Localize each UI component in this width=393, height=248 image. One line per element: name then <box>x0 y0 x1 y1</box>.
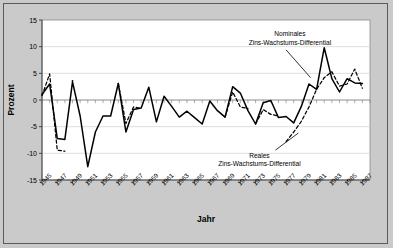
y-tick-label: -15 <box>27 177 37 184</box>
annotation-line-2: Zins-Wachstums-Differential <box>218 160 301 167</box>
y-tick-label: 15 <box>29 17 37 24</box>
x-axis-title: Jahr <box>197 214 216 224</box>
plot-wrapper: 151050-5-10-15 1945194719491951195319551… <box>0 0 393 248</box>
y-tick-label: 5 <box>33 70 37 77</box>
y-axis-title: Prozent <box>6 84 16 115</box>
zins-wachstums-differential-chart: 151050-5-10-15 1945194719491951195319551… <box>0 0 393 248</box>
y-tick-label: -5 <box>31 123 37 130</box>
chart-figure: 151050-5-10-15 1945194719491951195319551… <box>0 0 393 248</box>
series-point <box>72 80 74 82</box>
annotation-line-1: Reales <box>249 152 270 159</box>
annotation-line-1: Nominales <box>274 30 306 37</box>
y-axis: 151050-5-10-15 <box>27 17 42 184</box>
y-tick-label: -10 <box>27 150 37 157</box>
y-tick-label: 0 <box>33 97 37 104</box>
y-tick-label: 10 <box>29 43 37 50</box>
annotation-line-2: Zins-Wachstums-Differential <box>249 39 332 46</box>
